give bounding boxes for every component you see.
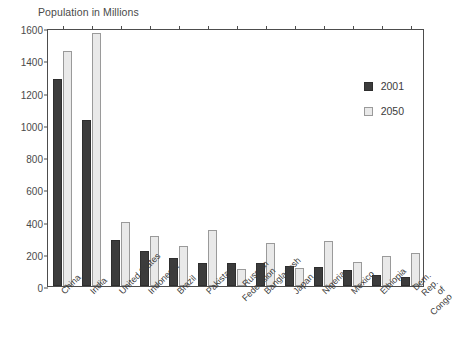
bar-group	[222, 30, 251, 286]
y-axis-tick-label: 200	[26, 250, 43, 261]
x-axis-tick-mark	[208, 26, 209, 30]
bar-group	[396, 30, 425, 286]
legend-item: 2001	[364, 80, 404, 92]
x-axis-tick-mark	[63, 26, 64, 30]
bar-group	[367, 30, 396, 286]
y-axis-tick-label: 0	[37, 283, 43, 294]
x-axis-labels: ChinaIndiaUnited StatesIndonesiaBrazilPa…	[47, 289, 424, 347]
x-axis-tick-mark	[266, 26, 267, 30]
bar	[111, 240, 120, 286]
bar-group	[106, 30, 135, 286]
bar-group	[48, 30, 77, 286]
x-axis-tick-mark	[353, 26, 354, 30]
y-axis-tick-label: 1600	[21, 25, 43, 36]
x-axis-tick-mark	[150, 26, 151, 30]
bar	[63, 51, 72, 286]
bar-group	[164, 30, 193, 286]
x-axis-tick-mark	[295, 26, 296, 30]
legend-item: 2050	[364, 105, 404, 117]
y-axis-tick-label: 800	[26, 154, 43, 165]
y-axis-tick-label: 1400	[21, 57, 43, 68]
bar	[92, 33, 101, 286]
legend-swatch-icon	[364, 107, 373, 116]
y-axis-tick-label: 1000	[21, 121, 43, 132]
legend-label: 2050	[381, 105, 404, 117]
x-axis-tick-mark	[382, 26, 383, 30]
y-axis-tick-label: 600	[26, 186, 43, 197]
bar-group	[251, 30, 280, 286]
y-axis-tick-label: 1200	[21, 89, 43, 100]
bar-group	[280, 30, 309, 286]
x-axis-tick-mark	[411, 26, 412, 30]
bar	[82, 120, 91, 286]
plot-area: 02004006008001000120014001600	[47, 29, 424, 287]
legend-label: 2001	[381, 80, 404, 92]
bar	[198, 263, 207, 286]
x-axis-tick-mark	[179, 26, 180, 30]
legend-swatch-icon	[364, 82, 373, 91]
chart-legend: 20012050	[364, 80, 404, 130]
x-axis-tick-mark	[237, 26, 238, 30]
bar	[314, 267, 323, 286]
bar-group	[135, 30, 164, 286]
x-axis-tick-mark	[92, 26, 93, 30]
bar	[53, 79, 62, 286]
bar-group	[338, 30, 367, 286]
x-axis-tick-mark	[121, 26, 122, 30]
bars-layer	[48, 30, 423, 286]
bar-group	[193, 30, 222, 286]
chart-axis-title: Population in Millions	[38, 6, 139, 18]
x-axis-tick-mark	[324, 26, 325, 30]
y-axis-tick-label: 400	[26, 218, 43, 229]
bar-group	[309, 30, 338, 286]
bar	[401, 277, 410, 286]
bar-group	[77, 30, 106, 286]
